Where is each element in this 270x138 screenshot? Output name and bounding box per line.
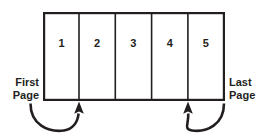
first-page-arrow-head <box>74 102 84 114</box>
page-range-diagram: 1 2 3 4 5 First Page Last Page <box>0 0 270 138</box>
page-cell-label-3: 3 <box>130 37 136 49</box>
last-page-arrow-curve <box>187 104 224 131</box>
first-page-label-line1: First <box>15 76 39 88</box>
first-page-arrow-curve <box>31 104 79 131</box>
page-cell-label-2: 2 <box>94 37 100 49</box>
page-cell-label-5: 5 <box>203 37 209 49</box>
last-page-label-line1: Last <box>229 76 252 88</box>
last-page-arrow <box>183 102 224 131</box>
last-page-arrow-head <box>183 102 193 114</box>
last-page-label-line2: Page <box>229 89 255 101</box>
page-cell-label-4: 4 <box>167 37 174 49</box>
page-cell-label-1: 1 <box>58 37 64 49</box>
first-page-label-line2: Page <box>13 89 39 101</box>
first-page-arrow <box>31 102 84 131</box>
page-range-box <box>44 13 224 100</box>
diagram-canvas: 1 2 3 4 5 First Page Last Page <box>0 0 270 138</box>
